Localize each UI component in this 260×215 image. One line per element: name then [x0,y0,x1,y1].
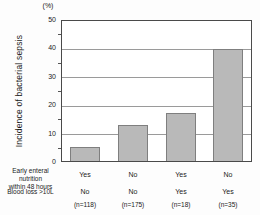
n-label: (n=175) [109,201,157,208]
n-label: (n=118) [61,201,109,208]
y-tick-label: 20 [30,101,56,109]
sepsis-bar [118,125,148,161]
blood-loss-value: No [109,188,157,195]
plot-area [61,20,252,162]
enteral-value: No [109,171,157,178]
sepsis-bar [213,49,243,161]
bar-chart-figure: (%) Incidence of bacterial sepsis 50 40 … [0,0,260,215]
y-tick-label: 30 [30,73,56,81]
y-tick-label: 0 [30,158,56,166]
sepsis-bar [70,147,100,161]
y-axis-unit-label: (%) [36,2,60,9]
n-label: (n=18) [157,201,205,208]
blood-loss-value: Yes [204,188,252,195]
enteral-value: Yes [61,171,109,178]
row-label-blood-loss: Blood loss >10L [2,188,59,196]
y-axis-title: Incidence of bacterial sepsis [14,35,24,148]
y-tick-label: 40 [30,44,56,52]
y-tick-label: 50 [30,16,56,24]
blood-loss-value: Yes [157,188,205,195]
n-label: (n=35) [204,201,252,208]
enteral-value: Yes [157,171,205,178]
sepsis-bar [166,113,196,161]
row-label-line: Early enteral nutrition [2,167,59,183]
y-tick-label: 10 [30,130,56,138]
blood-loss-value: No [61,188,109,195]
enteral-value: No [204,171,252,178]
